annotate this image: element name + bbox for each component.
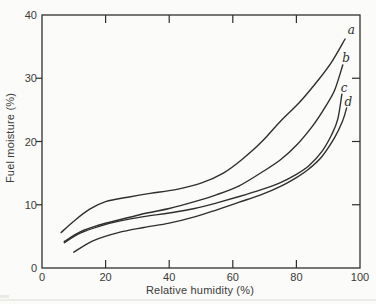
x-axis-title: Relative humidity (%) <box>100 284 300 296</box>
curve-b <box>64 65 343 241</box>
x-tick-label: 0 <box>39 271 45 283</box>
figure: 010203040020406080100abcd Fuel moisture … <box>0 0 376 304</box>
y-tick-label: 30 <box>25 72 37 84</box>
chart-canvas: 010203040020406080100abcd <box>0 0 376 304</box>
curve-a <box>61 39 345 233</box>
x-tick-label: 40 <box>163 271 175 283</box>
curve-label-d: d <box>344 95 352 109</box>
y-tick-label: 20 <box>25 136 37 148</box>
curve-label-a: a <box>348 23 355 37</box>
x-tick-label: 80 <box>290 271 302 283</box>
y-axis-title: Fuel moisture (%) <box>4 68 16 208</box>
y-tick-label: 0 <box>31 262 37 274</box>
scan-artifact-mark <box>0 295 9 298</box>
y-tick-label: 10 <box>25 199 37 211</box>
curve-label-b: b <box>342 51 350 65</box>
curve-label-c: c <box>341 81 348 95</box>
x-tick-label: 100 <box>351 271 369 283</box>
x-tick-label: 20 <box>99 271 111 283</box>
x-tick-label: 60 <box>227 271 239 283</box>
curve-c <box>64 94 342 243</box>
scan-artifact-line <box>0 299 376 301</box>
y-tick-label: 40 <box>25 9 37 21</box>
